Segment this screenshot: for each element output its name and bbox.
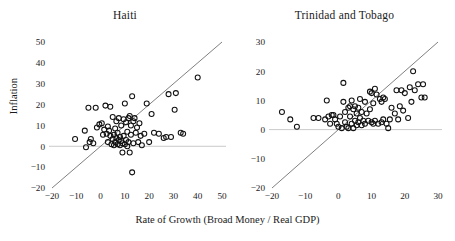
data-point-marker <box>402 91 407 96</box>
data-point-marker <box>316 115 321 120</box>
y-tick-label: −10 <box>31 162 46 172</box>
data-point-marker <box>392 111 397 116</box>
data-point-marker <box>139 143 144 148</box>
x-tick-label: 30 <box>433 191 443 201</box>
data-point-marker <box>110 115 115 120</box>
data-point-marker <box>294 124 299 129</box>
plot-area-trinidad-and-tobago: −20−100102030−20−100102030 <box>228 0 455 210</box>
y-tick-label: 30 <box>256 37 266 47</box>
data-point-marker <box>357 96 362 101</box>
x-tick-label: 10 <box>120 191 130 201</box>
data-point-marker <box>324 98 329 103</box>
data-point-marker <box>422 95 427 100</box>
data-point-marker <box>349 98 354 103</box>
x-tick-label: −20 <box>265 191 280 201</box>
data-point-marker <box>341 80 346 85</box>
data-point-marker <box>401 108 406 113</box>
x-tick-label: −20 <box>45 191 60 201</box>
data-point-marker <box>152 130 157 135</box>
x-tick-label: 50 <box>217 191 227 201</box>
data-point-marker <box>421 82 426 87</box>
data-point-marker <box>323 117 328 122</box>
data-point-marker <box>169 134 174 139</box>
data-point-marker <box>372 86 377 91</box>
data-point-marker <box>338 114 343 119</box>
y-tick-label: 0 <box>40 142 45 152</box>
data-point-marker <box>359 110 364 115</box>
x-tick-label: −10 <box>298 191 313 201</box>
data-point-marker <box>357 115 362 120</box>
data-point-marker <box>156 131 161 136</box>
data-point-marker <box>131 119 136 124</box>
data-point-marker <box>103 103 108 108</box>
data-point-marker <box>173 91 178 96</box>
x-tick-label: 20 <box>145 191 155 201</box>
data-point-marker <box>411 69 416 74</box>
y-tick-label: 10 <box>256 96 266 106</box>
data-point-marker <box>73 136 78 141</box>
y-tick-label: 20 <box>256 67 266 77</box>
data-point-marker <box>407 85 412 90</box>
data-point-marker <box>119 123 124 128</box>
data-point-marker <box>399 88 404 93</box>
data-point-marker <box>362 99 367 104</box>
x-tick-label: 10 <box>367 191 377 201</box>
plot-area-haiti: −20−1001020304050−20−1001020304050 <box>0 0 228 210</box>
y-tick-label: 50 <box>36 37 46 47</box>
y-tick-label: 40 <box>36 58 46 68</box>
data-point-marker <box>86 105 91 110</box>
data-point-marker <box>416 82 421 87</box>
data-point-marker <box>130 94 135 99</box>
x-tick-label: −10 <box>69 191 84 201</box>
data-point-marker <box>387 117 392 122</box>
x-tick-label: 0 <box>336 191 341 201</box>
data-point-marker <box>108 104 113 109</box>
data-point-marker <box>397 104 402 109</box>
data-point-marker <box>144 101 149 106</box>
data-point-marker <box>120 150 125 155</box>
data-point-marker <box>133 130 138 135</box>
data-point-marker <box>406 115 411 120</box>
data-point-marker <box>82 128 87 133</box>
data-point-marker <box>389 105 394 110</box>
data-point-marker <box>288 117 293 122</box>
data-point-marker <box>341 99 346 104</box>
data-point-marker <box>128 132 133 137</box>
data-point-marker <box>328 121 333 126</box>
y-tick-label: −20 <box>31 183 46 193</box>
data-point-marker <box>412 88 417 93</box>
data-point-marker <box>371 101 376 106</box>
data-point-marker <box>409 99 414 104</box>
data-point-marker <box>166 92 171 97</box>
x-tick-label: 30 <box>169 191 179 201</box>
x-tick-label: 20 <box>400 191 410 201</box>
data-point-marker <box>172 107 177 112</box>
data-point-marker <box>311 115 316 120</box>
data-point-marker <box>343 110 348 115</box>
data-point-marker <box>127 150 132 155</box>
y-tick-label: −10 <box>251 154 266 164</box>
y-tick-label: 10 <box>36 121 46 131</box>
data-point-marker <box>396 117 401 122</box>
y-tick-label: 0 <box>260 125 265 135</box>
y-tick-label: 20 <box>36 100 46 110</box>
panel-haiti: Haiti −20−1001020304050−20−1001020304050… <box>0 0 228 210</box>
data-point-marker <box>348 114 353 119</box>
data-point-marker <box>84 145 89 150</box>
figure-scatter-inflation-vs-money-growth: Haiti −20−1001020304050−20−1001020304050… <box>0 0 455 241</box>
y-tick-label: 30 <box>36 79 46 89</box>
data-point-marker <box>394 88 399 93</box>
data-point-marker <box>122 101 127 106</box>
data-point-marker <box>130 170 135 175</box>
data-point-marker <box>367 107 372 112</box>
data-point-marker <box>131 141 136 146</box>
data-point-marker <box>147 140 152 145</box>
x-tick-label: 0 <box>98 191 103 201</box>
data-point-marker <box>149 111 154 116</box>
y-axis-label: Inflation <box>8 42 19 78</box>
x-axis-label: Rate of Growth (Broad Money / Real GDP) <box>0 214 455 225</box>
data-point-marker <box>364 111 369 116</box>
forty-five-degree-line <box>52 42 222 188</box>
data-point-marker <box>195 75 200 80</box>
data-point-marker <box>93 105 98 110</box>
